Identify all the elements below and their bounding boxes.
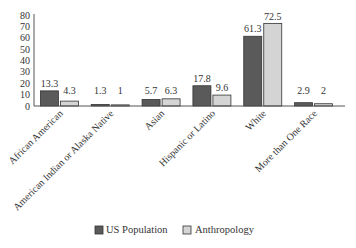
bar-anthropology xyxy=(60,101,78,106)
bar-us-population xyxy=(40,91,58,106)
x-category-label: Hispanic or Latino xyxy=(157,108,218,169)
bar-chart: 01020304050607080 13.34.31.315.76.317.89… xyxy=(0,0,356,248)
legend: US Population Anthropology xyxy=(95,224,255,235)
legend-swatch-anthropology xyxy=(183,226,191,234)
data-label-anthropology: 72.5 xyxy=(264,11,282,22)
y-axis-ticks: 01020304050607080 xyxy=(20,10,30,112)
data-label-us-population: 1.3 xyxy=(94,85,107,96)
y-tick-label: 50 xyxy=(20,44,30,55)
y-tick-label: 60 xyxy=(20,32,30,43)
bar-us-population xyxy=(244,36,262,106)
x-category-label: Asian xyxy=(142,108,166,132)
data-labels: 13.34.31.315.76.317.89.661.372.52.92 xyxy=(41,11,326,96)
data-label-us-population: 13.3 xyxy=(41,78,59,89)
data-label-anthropology: 4.3 xyxy=(63,85,76,96)
x-category-label: American Indian or Alaska Native xyxy=(11,107,116,212)
data-label-anthropology: 1 xyxy=(118,85,123,96)
y-tick-label: 80 xyxy=(20,10,30,21)
legend-swatch-us-population xyxy=(95,226,103,234)
x-axis-category-labels: African AmericanAmerican Indian or Alask… xyxy=(6,107,319,212)
bars xyxy=(40,24,332,106)
x-category-label: African American xyxy=(6,108,65,167)
legend-label-anthropology: Anthropology xyxy=(195,224,255,235)
data-label-us-population: 61.3 xyxy=(244,23,262,34)
bar-us-population xyxy=(193,86,211,106)
data-label-anthropology: 2 xyxy=(321,85,326,96)
y-tick-label: 40 xyxy=(20,55,30,66)
data-label-us-population: 17.8 xyxy=(193,73,211,84)
y-tick-label: 0 xyxy=(25,101,30,112)
bar-anthropology xyxy=(213,95,231,106)
data-label-anthropology: 6.3 xyxy=(165,85,178,96)
data-label-us-population: 5.7 xyxy=(145,85,158,96)
legend-label-us-population: US Population xyxy=(106,224,168,235)
bar-anthropology xyxy=(264,24,282,106)
y-tick-label: 70 xyxy=(20,21,30,32)
bar-anthropology xyxy=(162,99,180,106)
bar-us-population xyxy=(142,100,160,106)
data-label-anthropology: 9.6 xyxy=(216,82,229,93)
data-label-us-population: 2.9 xyxy=(297,85,310,96)
y-tick-label: 20 xyxy=(20,78,30,89)
x-category-label: White xyxy=(243,107,268,132)
y-tick-label: 30 xyxy=(20,66,30,77)
y-tick-label: 10 xyxy=(20,89,30,100)
